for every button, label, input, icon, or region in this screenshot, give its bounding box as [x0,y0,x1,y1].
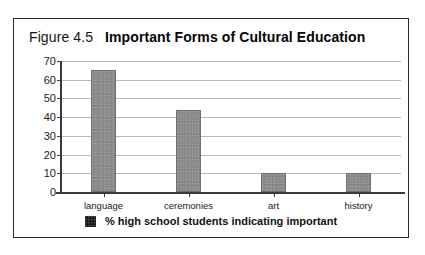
chart-legend: % high school students indicating import… [14,215,408,227]
y-axis-tick-label: 70 [44,55,56,67]
x-axis-line [56,192,405,194]
y-axis-tick-label: 40 [44,111,56,123]
figure-frame: Figure 4.5Important Forms of Cultural Ed… [13,18,409,238]
chart-plot-area: 010203040506070 languageceremoniesarthis… [61,61,401,192]
y-axis-tick-label: 50 [44,92,56,104]
x-axis-tick-label: history [345,200,373,211]
gridline [61,61,401,62]
figure-number: Figure 4.5 [29,29,93,45]
y-axis-line [60,61,62,193]
y-axis-tick-label: 20 [44,149,56,161]
x-axis-tick-label: ceremonies [164,200,213,211]
x-axis-tick-mark [359,193,360,197]
x-axis-tick-mark [189,193,190,197]
legend-label: % high school students indicating import… [105,215,337,227]
bar-ceremonies [176,110,201,192]
x-axis-tick-mark [104,193,105,197]
x-axis-tick-label: language [84,200,123,211]
bar-language [91,70,116,192]
x-axis-tick-mark [274,193,275,197]
x-axis-tick-label: art [268,200,279,211]
y-axis-tick-label: 60 [44,74,56,86]
bar-art [261,173,286,192]
y-axis-tick-label: 30 [44,130,56,142]
page-title: Important Forms of Cultural Education [105,29,365,45]
legend-swatch-icon [85,216,96,227]
bar-history [346,173,371,192]
figure-caption: Figure 4.5Important Forms of Cultural Ed… [29,29,365,45]
y-axis-tick-label: 10 [44,167,56,179]
